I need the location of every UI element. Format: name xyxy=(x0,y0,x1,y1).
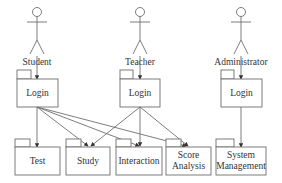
package-label: Login xyxy=(230,88,253,98)
package-tab xyxy=(216,139,234,147)
package-interaction[interactable]: Interaction xyxy=(116,139,162,175)
package-label-line1: System xyxy=(227,150,256,160)
package-label: Interaction xyxy=(118,156,159,166)
package-tab xyxy=(166,139,181,147)
package-tab xyxy=(116,139,131,147)
package-tab xyxy=(17,70,31,79)
package-study[interactable]: Study xyxy=(66,139,110,175)
package-tab xyxy=(15,139,30,147)
package-tab xyxy=(120,70,133,79)
package-student-login[interactable]: Login xyxy=(17,70,58,107)
stick-figure-icon xyxy=(27,8,47,55)
package-label: Test xyxy=(30,156,46,166)
stick-figure-icon xyxy=(231,8,251,55)
diagram-canvas: Student Teacher Administrator Login xyxy=(0,0,282,183)
package-tab xyxy=(221,70,234,79)
arrow-teacher-study xyxy=(91,107,140,146)
package-label-line1: Score xyxy=(178,150,200,160)
package-administrator-login[interactable]: Login xyxy=(221,70,262,107)
package-score-analysis[interactable]: Score Analysis xyxy=(166,139,211,175)
package-label: Study xyxy=(77,156,99,166)
package-label: Login xyxy=(26,88,49,98)
stick-figure-icon xyxy=(130,8,150,55)
package-tab xyxy=(66,139,81,147)
package-label: Login xyxy=(129,88,152,98)
package-test[interactable]: Test xyxy=(15,139,60,175)
package-label-line2: Management xyxy=(216,161,266,171)
package-label-line2: Analysis xyxy=(172,161,206,171)
